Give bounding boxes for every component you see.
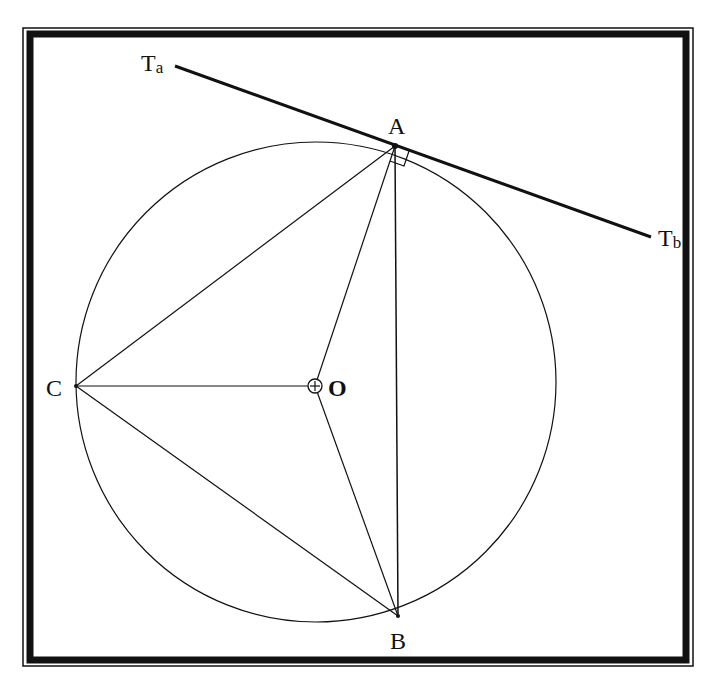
segment-AC (76, 146, 395, 386)
geometry-diagram: A B C O Ta Tb (0, 0, 716, 687)
label-O: O (328, 375, 347, 401)
label-B: B (390, 628, 406, 654)
label-Ta: Ta (141, 50, 164, 77)
radius-OA (315, 146, 395, 386)
segment-AB (395, 146, 398, 616)
point-B (396, 614, 400, 618)
point-A (392, 143, 398, 149)
label-C: C (46, 375, 62, 401)
radius-OB (315, 386, 398, 616)
label-Tb: Tb (658, 225, 681, 252)
label-A: A (388, 113, 406, 139)
point-C (74, 384, 78, 388)
tangent-line (175, 66, 651, 237)
frame-outer (23, 28, 693, 666)
segment-CB (76, 386, 398, 616)
